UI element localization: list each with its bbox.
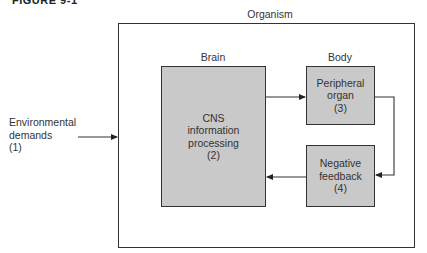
edge-peripheral-to-feedback [375,97,394,175]
connector-layer [0,0,427,253]
